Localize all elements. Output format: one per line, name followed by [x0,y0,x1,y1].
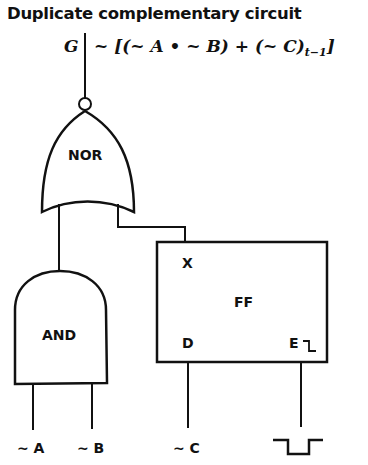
inversion-bubble [79,98,91,110]
circuit-drawing [0,0,368,465]
output-label: G [64,36,79,56]
ff-pin-d: D [182,335,194,351]
nor-gate-label: NOR [68,147,102,163]
output-expression: ~ [(~ A • ~ B) + (~ C)t−1] [94,36,335,59]
input-b-label: ~ B [77,440,104,456]
input-c-label: ~ C [173,440,200,456]
ff-pin-e: E [289,335,299,351]
and-gate-label: AND [42,327,76,343]
negative-pulse-icon [273,440,323,454]
ff-pin-x: X [182,255,193,271]
falling-edge-icon [303,341,316,351]
ff-label: FF [234,294,253,310]
input-a-label: ~ A [17,440,44,456]
